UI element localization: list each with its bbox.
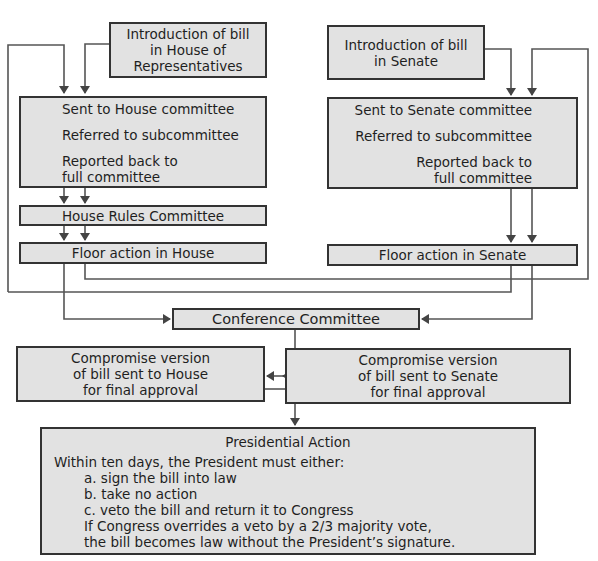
house-floor-action-box: Floor action in House <box>19 242 267 264</box>
conference-committee-box: Conference Committee <box>172 308 420 330</box>
compromise-senate-line-3: for final approval <box>370 384 485 400</box>
senate-intro-connector <box>485 49 511 95</box>
compromise-senate-line-2: of bill sent to Senate <box>358 368 498 384</box>
senate-intro-line-1: Introduction of bill <box>344 37 467 53</box>
presidential-option-b: b. take no action <box>54 486 455 502</box>
compromise-house-line-3: for final approval <box>83 382 198 398</box>
house-intro-connector <box>85 44 109 93</box>
presidential-override-2: the bill becomes law without the Preside… <box>54 534 455 550</box>
senate-introduction-box: Introduction of bill in Senate <box>327 25 485 80</box>
presidential-option-a: a. sign the bill into law <box>54 470 455 486</box>
house-rules-label: House Rules Committee <box>62 208 224 224</box>
conference-label: Conference Committee <box>212 311 380 327</box>
presidential-body: Within ten days, the President must eith… <box>54 454 455 550</box>
house-intro-line-3: Representatives <box>133 58 242 74</box>
compromise-senate-line-1: Compromise version <box>359 352 498 368</box>
senate-step-reported-1: Reported back to <box>416 154 532 170</box>
senate-floor-label: Floor action in Senate <box>379 247 527 263</box>
house-floor-label: Floor action in House <box>72 245 215 261</box>
house-step-reported-2: full committee <box>62 169 160 185</box>
house-committee-box: Sent to House committee Referred to subc… <box>19 96 267 188</box>
house-introduction-box: Introduction of bill in House of Represe… <box>109 22 267 78</box>
compromise-house-line-1: Compromise version <box>71 350 210 366</box>
compromise-house-line-2: of bill sent to House <box>73 366 208 382</box>
senate-committee-box: Sent to Senate committee Referred to sub… <box>327 97 578 189</box>
senate-intro-line-2: in Senate <box>374 53 438 69</box>
house-step-referred: Referred to subcommittee <box>62 127 239 143</box>
senate-step-reported-2: full committee <box>434 170 532 186</box>
presidential-intro: Within ten days, the President must eith… <box>54 454 455 470</box>
presidential-title: Presidential Action <box>42 434 534 450</box>
senate-step-referred: Referred to subcommittee <box>355 128 532 144</box>
house-intro-line-2: in House of <box>150 42 226 58</box>
house-intro-line-1: Introduction of bill <box>126 26 249 42</box>
house-step-reported-1: Reported back to <box>62 153 178 169</box>
presidential-override-1: If Congress overrides a veto by a 2/3 ma… <box>54 518 455 534</box>
presidential-option-c: c. veto the bill and return it to Congre… <box>54 502 455 518</box>
compromise-senate-box: Compromise version of bill sent to Senat… <box>285 348 571 404</box>
senate-floor-action-box: Floor action in Senate <box>327 244 578 266</box>
house-rules-committee-box: House Rules Committee <box>19 205 267 226</box>
presidential-action-box: Presidential Action Within ten days, the… <box>40 427 536 555</box>
compromise-house-box: Compromise version of bill sent to House… <box>16 346 265 402</box>
senate-step-sent: Sent to Senate committee <box>355 102 532 118</box>
house-step-sent: Sent to House committee <box>62 101 234 117</box>
